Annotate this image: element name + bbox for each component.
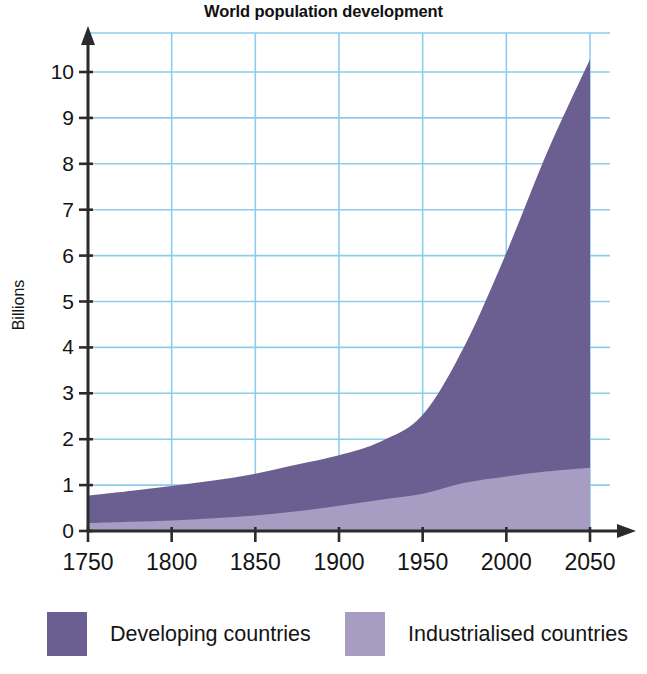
x-tick-label: 1750	[43, 551, 133, 574]
y-tick-label: 1	[40, 474, 74, 495]
legend-swatch-industrialised	[345, 612, 385, 656]
y-tick-label: 7	[40, 199, 74, 220]
x-tick-label: 1900	[294, 551, 384, 574]
chart-legend: Developing countries Industrialised coun…	[0, 612, 647, 668]
legend-swatch-developing	[47, 612, 87, 656]
x-tick-label: 1950	[378, 551, 468, 574]
x-tick-label: 2050	[545, 551, 635, 574]
y-tick-label: 5	[40, 291, 74, 312]
y-tick-label: 6	[40, 245, 74, 266]
y-tick-label: 4	[40, 336, 74, 357]
legend-label-developing: Developing countries	[110, 622, 311, 647]
chart-figure: World population development Billions 01…	[0, 0, 647, 674]
y-tick-label: 2	[40, 428, 74, 449]
x-tick-label: 2000	[461, 551, 551, 574]
x-tick-label: 1800	[127, 551, 217, 574]
x-tick-label: 1850	[210, 551, 300, 574]
y-tick-label: 10	[40, 61, 74, 82]
y-tick-label: 8	[40, 153, 74, 174]
y-tick-label: 9	[40, 107, 74, 128]
legend-label-industrialised: Industrialised countries	[408, 622, 628, 647]
y-tick-label: 0	[40, 520, 74, 541]
y-tick-label: 3	[40, 382, 74, 403]
legend-item-industrialised: Industrialised countries	[345, 612, 628, 656]
legend-item-developing: Developing countries	[47, 612, 311, 656]
